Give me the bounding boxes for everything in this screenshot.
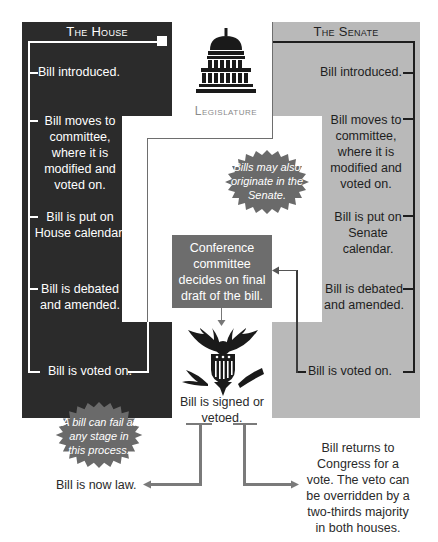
presidential-eagle-seal-icon <box>178 326 268 398</box>
legislature-outline-bottom <box>147 138 273 139</box>
legislature-label: Legislature <box>180 104 272 118</box>
house-step-committee: Bill moves to committee, where it is mod… <box>38 113 122 193</box>
senate-to-conference-riser <box>296 270 298 373</box>
senate-tick-5 <box>403 371 415 373</box>
signed-riser <box>199 423 202 485</box>
vetoed-to-congress-line <box>243 483 293 486</box>
senate-step-debated: Bill is debated and amended. <box>322 281 406 313</box>
house-bracket-spine <box>28 41 30 372</box>
legislature-outline-left <box>147 138 148 324</box>
outcome-law: Bill is now law. <box>56 477 146 493</box>
senate-step-voted: Bill is voted on. <box>300 363 400 379</box>
house-voted-connector <box>128 371 148 373</box>
senate-step-committee: Bill moves to committee, where it is mod… <box>324 112 408 192</box>
note-fail: A bill can fail at any stage in this pro… <box>62 415 136 457</box>
senate-bracket-spine <box>413 41 415 372</box>
senate-title: The Senate <box>272 24 420 39</box>
conference-committee-box: Conference committee decides on final dr… <box>172 235 272 308</box>
house-bracket-top <box>28 41 160 43</box>
house-voted-riser <box>147 322 149 373</box>
house-step-calendar: Bill is put on House calendar. <box>34 209 126 241</box>
president-action-text: Bill is signed or vetoed. <box>170 394 274 426</box>
house-title: The House <box>22 24 172 39</box>
house-bracket-square <box>157 36 167 46</box>
note-originate: Bills may also originate in the Senate. <box>230 160 304 202</box>
house-tick-1 <box>28 72 38 74</box>
legislature-outline-right <box>272 22 273 139</box>
arrow-right-icon <box>291 480 300 489</box>
house-step-voted: Bill is voted on. <box>40 363 140 379</box>
senate-step-introduced: Bill introduced. <box>310 64 402 80</box>
house-tick-4 <box>28 288 38 290</box>
senate-bracket-top <box>272 41 415 43</box>
outcome-veto: Bill returns to Congress for a vote. The… <box>302 440 414 536</box>
house-tick-2 <box>28 120 38 122</box>
capitol-building-icon <box>196 28 256 94</box>
senate-step-calendar: Bill is put on Senate calendar. <box>322 209 414 257</box>
house-tick-5 <box>28 371 40 373</box>
conference-committee-text: Conference committee decides on final dr… <box>172 240 272 304</box>
arrow-left-icon <box>272 266 280 275</box>
house-step-introduced: Bill introduced. <box>38 64 122 80</box>
signed-to-law-line <box>148 483 202 486</box>
senate-tick-1 <box>403 72 413 74</box>
vetoed-riser <box>243 423 246 485</box>
house-step-debated: Bill is debated and amended. <box>38 281 122 313</box>
